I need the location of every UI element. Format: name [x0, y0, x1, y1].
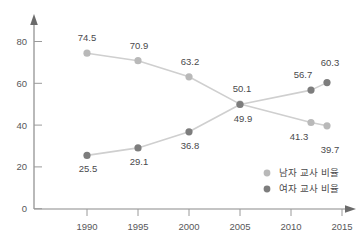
legend-label-female: 여자 교사 비율	[279, 183, 339, 194]
legend-item-female[interactable]: 여자 교사 비율	[264, 183, 339, 194]
y-tick-label-0: 0	[22, 203, 27, 214]
value-label-female-1990: 25.5	[79, 163, 98, 174]
value-label-male-1995: 70.9	[130, 40, 149, 51]
legend-label-male: 남자 교사 비율	[279, 167, 339, 178]
series-line-male	[87, 53, 327, 126]
data-point-female-2014	[323, 79, 330, 86]
y-tick-label-40: 40	[16, 120, 27, 131]
x-axis-arrow-icon	[345, 205, 356, 213]
legend-item-male[interactable]: 남자 교사 비율	[264, 167, 339, 178]
legend-dot-icon-female	[264, 186, 271, 193]
data-point-male-2012	[307, 119, 314, 126]
y-tick-label-60: 60	[16, 78, 27, 89]
y-tick-label-80: 80	[16, 36, 27, 47]
data-point-male-1995	[134, 57, 141, 64]
chart-canvas: 80 60 40 20 0 1990 1995 2000 2005 2010 2…	[0, 0, 361, 252]
data-point-female-2005	[236, 101, 243, 108]
data-point-male-2014	[323, 122, 330, 129]
chart-caption	[0, 244, 361, 252]
value-label-male-2012: 41.3	[290, 131, 309, 142]
x-tick-label-2000: 2000	[178, 221, 199, 232]
x-tick-label-1990: 1990	[76, 221, 97, 232]
x-tick-label-1995: 1995	[127, 221, 148, 232]
series-line-female	[87, 83, 327, 156]
data-point-male-1990	[83, 50, 90, 57]
line-chart: 80 60 40 20 0 1990 1995 2000 2005 2010 2…	[0, 0, 361, 252]
legend-dot-icon-male	[264, 170, 271, 177]
x-tick-label-2010: 2010	[280, 221, 301, 232]
value-label-male-2014: 39.7	[321, 144, 340, 155]
data-point-female-2000	[185, 128, 192, 135]
value-label-female-2014: 60.3	[321, 57, 340, 68]
y-tick-label-20: 20	[16, 161, 27, 172]
data-point-female-2012	[307, 87, 314, 94]
y-axis-arrow-icon	[30, 14, 38, 25]
value-label-female-2005: 49.9	[234, 113, 253, 124]
value-label-male-1990: 74.5	[78, 32, 97, 43]
chart-legend: 남자 교사 비율 여자 교사 비율	[264, 167, 339, 194]
value-label-female-2000: 36.8	[181, 140, 200, 151]
x-tick-label-2005: 2005	[229, 221, 250, 232]
value-label-female-1995: 29.1	[130, 156, 149, 167]
data-point-male-2000	[185, 73, 192, 80]
data-point-female-1995	[134, 144, 141, 151]
data-point-female-1990	[83, 152, 90, 159]
value-label-female-2012: 56.7	[294, 69, 313, 80]
x-tick-label-2015: 2015	[331, 221, 352, 232]
value-label-male-2005: 50.1	[233, 83, 252, 94]
value-label-male-2000: 63.2	[181, 56, 200, 67]
